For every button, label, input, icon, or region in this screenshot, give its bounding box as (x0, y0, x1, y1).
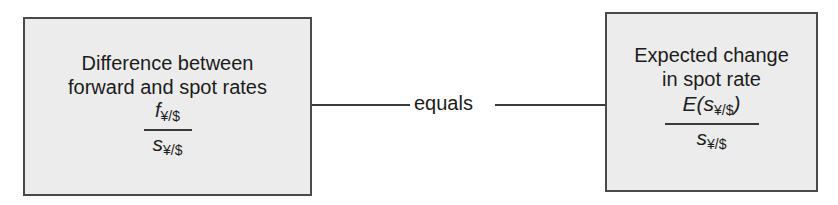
fraction-denominator: s¥/$ (697, 127, 727, 155)
fraction-bar (665, 123, 759, 125)
forward-over-spot-fraction: f¥/$ s¥/$ (144, 99, 192, 161)
fraction-numerator: E(s¥/$) (683, 93, 741, 121)
spot-rate-symbol: s (697, 126, 708, 149)
currency-pair-subscript: ¥/$ (161, 108, 180, 124)
right-box-title-line1: Expected change (634, 43, 789, 67)
expectation-operator-open: E( (683, 92, 704, 115)
forward-spot-difference-box: Difference between forward and spot rate… (23, 17, 312, 196)
fraction-bar (144, 129, 192, 131)
fraction-denominator: s¥/$ (153, 133, 183, 161)
left-box-title-line1: Difference between (68, 51, 267, 75)
expectation-operator-close: ) (733, 92, 740, 115)
left-box-title-line2: forward and spot rates (68, 75, 267, 99)
fraction-numerator: f¥/$ (155, 99, 180, 127)
right-box-title: Expected change in spot rate (634, 43, 789, 91)
spot-rate-symbol: s (153, 132, 164, 155)
left-box-title: Difference between forward and spot rate… (68, 51, 267, 99)
right-box-title-line2: in spot rate (634, 67, 789, 91)
currency-pair-subscript: ¥/$ (163, 142, 182, 158)
currency-pair-subscript: ¥/$ (707, 136, 726, 152)
expected-spot-change-box: Expected change in spot rate E(s¥/$) s¥/… (605, 12, 818, 192)
expected-over-spot-fraction: E(s¥/$) s¥/$ (665, 93, 759, 155)
connector-line-left (312, 104, 410, 106)
spot-rate-symbol: s (704, 92, 715, 115)
connector-line-right (495, 104, 606, 106)
currency-pair-subscript: ¥/$ (714, 102, 733, 118)
equals-label: equals (414, 90, 473, 116)
